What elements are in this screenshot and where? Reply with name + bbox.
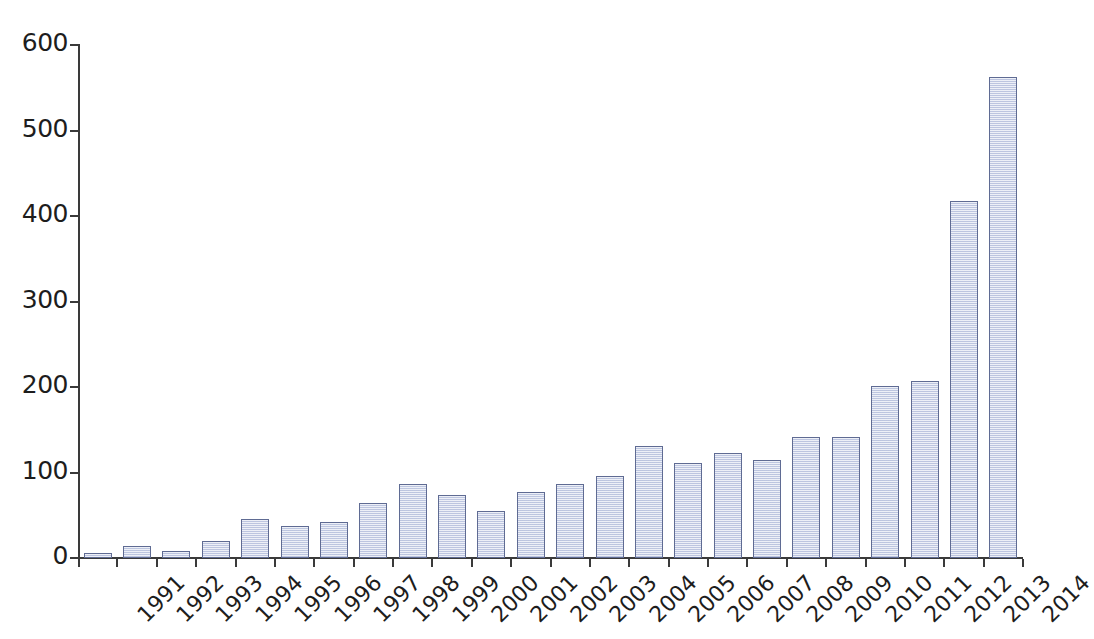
bar-2004 [596, 476, 624, 558]
bar-2005 [635, 446, 663, 558]
bar-2012 [911, 381, 939, 558]
bar-2011 [871, 386, 899, 558]
bar-2000 [438, 495, 466, 558]
bar-1996 [281, 526, 309, 558]
bar-2003 [556, 484, 584, 558]
bar-1994 [202, 541, 230, 558]
bar-1999 [399, 484, 427, 558]
bar-1991 [84, 553, 112, 558]
bar-1997 [320, 522, 348, 558]
bar-2002 [517, 492, 545, 558]
bar-1993 [162, 551, 190, 558]
bar-2006 [674, 463, 702, 558]
bar-2007 [714, 453, 742, 558]
bar-2001 [477, 511, 505, 558]
bar-2009 [792, 437, 820, 558]
bar-2010 [832, 437, 860, 558]
bar-2013 [950, 201, 978, 558]
bar-1998 [359, 503, 387, 558]
bar-1995 [241, 519, 269, 558]
bar-1992 [123, 546, 151, 558]
bar-2008 [753, 460, 781, 558]
bar-2014 [989, 77, 1017, 558]
